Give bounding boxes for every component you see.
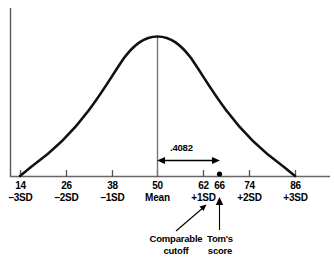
chart-canvas [0,0,334,259]
axis-label-38-sd: –1SD [91,192,134,204]
cutoff-leader-arrow [176,205,207,232]
axis-label-86-sd: +3SD [274,192,317,204]
axis-label-86: 86 +3SD [274,180,317,203]
axis-label-14: 14 –3SD [0,180,42,203]
axis-label-74: 74 +2SD [228,180,271,203]
axis-label-74-value: 74 [228,180,271,192]
axis-label-26: 26 –2SD [45,180,88,203]
score-callout-line2: score [197,245,243,257]
toms-score-callout: Tom's score [197,233,243,256]
axis-label-14-value: 14 [0,180,42,192]
axis-label-74-sd: +2SD [228,192,271,204]
probability-label: .4082 [170,142,193,153]
probability-span-arrow [157,157,220,164]
score-marker-dot [217,171,222,176]
score-callout-line1: Tom's [197,233,243,245]
axis-label-86-value: 86 [274,180,317,192]
axis-label-26-sd: –2SD [45,192,88,204]
normal-distribution-figure: 14 –3SD 26 –2SD 38 –1SD 50 Mean 62 +1SD … [0,0,334,259]
axis-label-26-value: 26 [45,180,88,192]
axis-label-50-mean: 50 Mean [136,180,179,203]
axis-label-50-value: 50 [136,180,179,192]
axis-label-14-sd: –3SD [0,192,42,204]
axis-label-mean: Mean [136,192,179,204]
axis-label-38-value: 38 [91,180,134,192]
axis-label-38: 38 –1SD [91,180,134,203]
axis-label-62-sd: +1SD [182,192,225,204]
